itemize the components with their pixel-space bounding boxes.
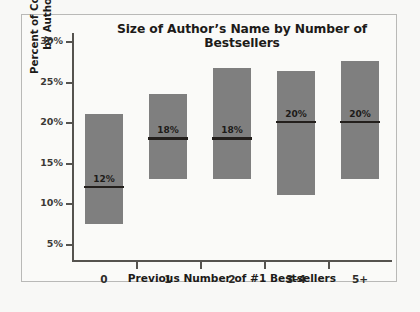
median-label-0: 12% <box>93 174 115 184</box>
chart-figure: Size of Author’s Name by Number of Bests… <box>0 0 420 312</box>
median-line-1 <box>148 137 188 140</box>
x-tick-mark <box>328 260 330 269</box>
y-tick-label: 5% <box>47 237 63 250</box>
bar-0 <box>85 114 123 223</box>
y-tick-mark <box>66 122 73 124</box>
y-tick-mark <box>66 82 73 84</box>
bar-2 <box>213 68 251 179</box>
median-label-1: 18% <box>157 125 179 135</box>
y-tick-label: 10% <box>40 196 63 209</box>
median-line-2 <box>212 137 252 140</box>
median-label-34: 20% <box>285 109 307 119</box>
y-tick-label: 20% <box>40 115 63 128</box>
plot-area: 30%25%20%15%10%5% 0123–45+ 12%18%18%20%2… <box>72 28 392 262</box>
x-tick-mark <box>264 260 266 269</box>
median-label-5: 20% <box>349 109 371 119</box>
y-tick-label: 30% <box>40 34 63 47</box>
bar-34 <box>277 71 315 195</box>
median-label-2: 18% <box>221 125 243 135</box>
x-tick-mark <box>136 260 138 269</box>
y-tick-mark <box>66 163 73 165</box>
x-axis-line <box>72 260 392 262</box>
y-tick-mark <box>66 203 73 205</box>
median-line-5 <box>340 121 380 124</box>
x-axis-title: Previous Number of #1 Bestsellers <box>72 272 392 284</box>
y-tick-mark <box>66 41 73 43</box>
y-axis-line <box>72 33 74 262</box>
median-line-0 <box>84 186 124 189</box>
median-line-34 <box>276 121 316 124</box>
y-tick-label: 15% <box>40 156 63 169</box>
x-tick-mark <box>200 260 202 269</box>
y-tick-mark <box>66 244 73 246</box>
y-tick-label: 25% <box>40 75 63 88</box>
